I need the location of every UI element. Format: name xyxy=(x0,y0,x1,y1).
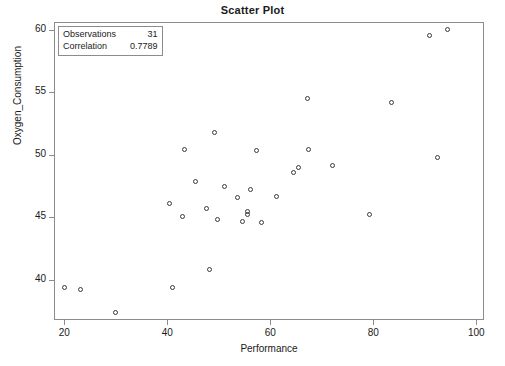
x-axis-tick-label: 80 xyxy=(353,327,393,338)
data-point xyxy=(445,27,450,32)
data-point xyxy=(427,33,432,38)
correlation-value: 0.7789 xyxy=(130,41,158,53)
data-point xyxy=(204,206,209,211)
data-point xyxy=(240,219,245,224)
y-axis-tick-label: 45 xyxy=(20,210,46,221)
y-axis-tick-label: 50 xyxy=(20,148,46,159)
data-point xyxy=(212,130,217,135)
data-point xyxy=(248,187,253,192)
x-axis-tick xyxy=(373,320,374,325)
data-point xyxy=(306,147,311,152)
data-point xyxy=(182,147,187,152)
data-point xyxy=(259,220,264,225)
x-axis-tick xyxy=(476,320,477,325)
x-axis-tick xyxy=(167,320,168,325)
data-point xyxy=(296,165,301,170)
x-axis-tick-label: 40 xyxy=(147,327,187,338)
y-axis-tick xyxy=(49,155,54,156)
data-point xyxy=(193,179,198,184)
x-axis-tick-label: 100 xyxy=(456,327,496,338)
x-axis-tick xyxy=(64,320,65,325)
legend-row-correlation: Correlation 0.7789 xyxy=(63,41,158,53)
data-point xyxy=(180,214,185,219)
data-point xyxy=(274,194,279,199)
data-point xyxy=(215,217,220,222)
x-axis-tick-label: 60 xyxy=(250,327,290,338)
statistics-legend-box: Observations 31 Correlation 0.7789 xyxy=(58,26,163,56)
correlation-label: Correlation xyxy=(63,41,130,53)
data-point xyxy=(222,184,227,189)
x-axis-tick-label: 20 xyxy=(44,327,84,338)
data-point xyxy=(113,310,118,315)
scatter-plot-figure: Scatter Plot 204060801004045505560 Perfo… xyxy=(0,0,505,366)
observations-label: Observations xyxy=(63,29,130,41)
data-point xyxy=(389,100,394,105)
y-axis-tick-label: 40 xyxy=(20,273,46,284)
observations-value: 31 xyxy=(130,29,158,41)
y-axis-tick xyxy=(49,92,54,93)
data-point xyxy=(207,267,212,272)
data-point xyxy=(305,96,310,101)
data-point xyxy=(62,285,67,290)
x-axis-label: Performance xyxy=(54,343,484,354)
data-point xyxy=(291,170,296,175)
data-point xyxy=(235,195,240,200)
y-axis-tick-label: 55 xyxy=(20,85,46,96)
x-axis-tick xyxy=(270,320,271,325)
data-point xyxy=(367,212,372,217)
data-point xyxy=(435,155,440,160)
plot-canvas xyxy=(54,22,484,320)
data-point xyxy=(78,287,83,292)
chart-title: Scatter Plot xyxy=(0,4,505,16)
data-point xyxy=(330,163,335,168)
legend-row-observations: Observations 31 xyxy=(63,29,158,41)
y-axis-label: Oxygen_Consumption xyxy=(12,16,23,176)
y-axis-tick xyxy=(49,217,54,218)
y-axis-tick-label: 60 xyxy=(20,23,46,34)
data-point xyxy=(167,201,172,206)
y-axis-tick xyxy=(49,280,54,281)
y-axis-tick xyxy=(49,30,54,31)
data-point xyxy=(170,285,175,290)
data-point xyxy=(254,148,259,153)
data-point xyxy=(245,212,250,217)
